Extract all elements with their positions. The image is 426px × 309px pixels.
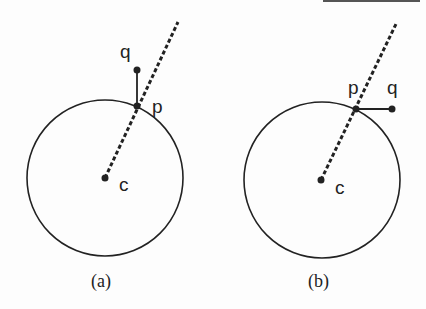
diagram-canvas: q p c (a) p q c (b) — [0, 0, 426, 309]
label-c-b: c — [335, 177, 345, 198]
label-p-a: p — [152, 96, 163, 117]
figure: q p c (a) p q c (b) — [0, 0, 426, 309]
label-p-b: p — [348, 77, 359, 98]
point-q-a — [134, 67, 141, 74]
label-q-b: q — [387, 77, 398, 98]
panel-b: p q c (b) — [244, 24, 400, 292]
point-q-b — [389, 106, 396, 113]
caption-b: (b) — [308, 271, 329, 292]
point-p-b — [353, 106, 360, 113]
point-c-a — [102, 175, 109, 182]
point-c-b — [318, 177, 325, 184]
label-c-a: c — [119, 174, 129, 195]
point-p-a — [134, 103, 141, 110]
panel-a: q p c (a) — [27, 22, 183, 292]
caption-a: (a) — [91, 271, 111, 292]
label-q-a: q — [120, 41, 131, 62]
